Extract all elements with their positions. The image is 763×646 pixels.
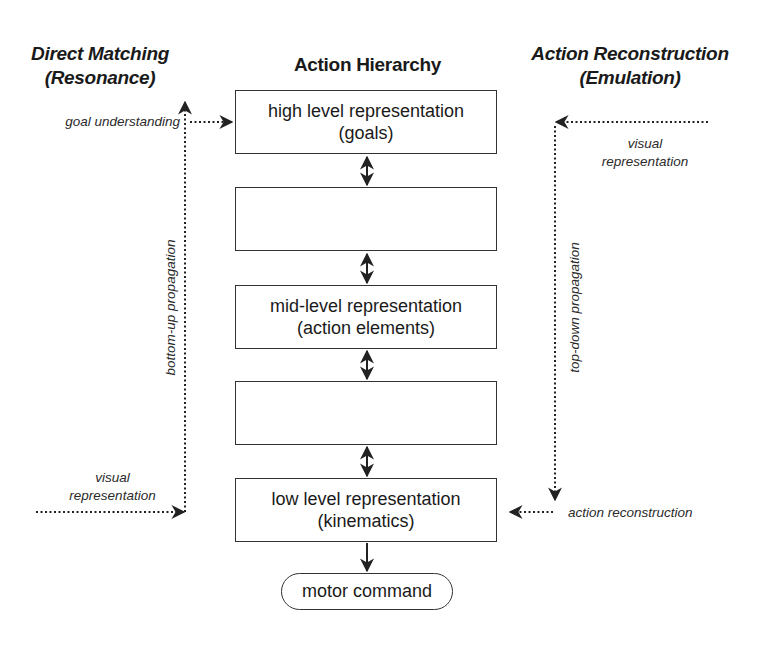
left-pathway-arrows xyxy=(36,102,232,512)
right-pathway-arrows xyxy=(510,122,708,512)
arrows-overlay xyxy=(0,0,763,646)
